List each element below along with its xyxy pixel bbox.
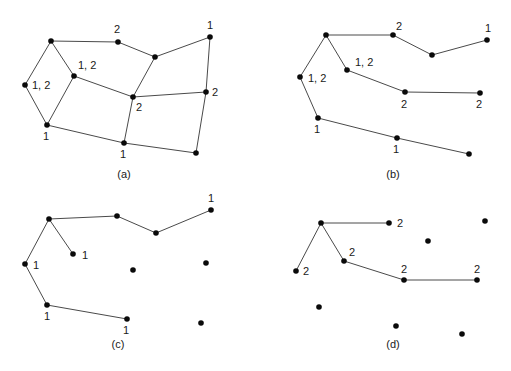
graph-node bbox=[393, 323, 399, 329]
graph-edge bbox=[124, 143, 196, 153]
graph-node bbox=[121, 140, 127, 146]
node-label: 1 bbox=[485, 22, 491, 34]
graph-node bbox=[390, 32, 396, 38]
graph-edge bbox=[344, 261, 404, 280]
graph-edge bbox=[432, 40, 487, 55]
node-label: 1, 2 bbox=[355, 56, 373, 68]
graph-edge bbox=[321, 223, 344, 261]
node-label: 1 bbox=[44, 310, 50, 322]
graph-node bbox=[70, 251, 76, 257]
node-label: 2 bbox=[401, 263, 407, 275]
graph-node bbox=[477, 90, 483, 96]
graph-node bbox=[386, 220, 392, 226]
graph-edge bbox=[47, 76, 74, 125]
node-label: 1, 2 bbox=[308, 72, 326, 84]
graph-edge bbox=[25, 219, 49, 264]
node-label: 2 bbox=[401, 98, 407, 110]
graph-node bbox=[203, 89, 209, 95]
node-label: 2 bbox=[303, 265, 309, 277]
graph-node bbox=[152, 54, 158, 60]
graph-node bbox=[341, 258, 347, 264]
node-label: 1 bbox=[120, 148, 126, 160]
graph-node bbox=[344, 67, 350, 73]
node-label: 2 bbox=[474, 263, 480, 275]
graph-node bbox=[130, 267, 136, 273]
node-label: 1 bbox=[33, 259, 39, 271]
graph-edge bbox=[156, 210, 211, 233]
graph-node bbox=[44, 122, 50, 128]
graph-node bbox=[474, 277, 480, 283]
panel-caption: (d) bbox=[386, 338, 399, 350]
graph-edge bbox=[51, 41, 74, 76]
graph-node bbox=[208, 207, 214, 213]
graph-edge bbox=[74, 76, 133, 97]
graph-node bbox=[198, 320, 204, 326]
node-label: 1, 2 bbox=[78, 59, 96, 71]
graph-edge bbox=[124, 97, 133, 143]
graph-edge bbox=[117, 216, 156, 233]
graph-node bbox=[425, 238, 431, 244]
graph-edge bbox=[155, 37, 210, 57]
graph-node bbox=[153, 230, 159, 236]
node-label: 1 bbox=[393, 143, 399, 155]
node-label: 1 bbox=[43, 130, 49, 142]
graph-edge bbox=[347, 70, 405, 92]
graph-node bbox=[459, 331, 465, 337]
graph-node bbox=[115, 39, 121, 45]
graph-node bbox=[44, 302, 50, 308]
node-label: 2 bbox=[136, 101, 142, 113]
graph-edge bbox=[397, 138, 469, 154]
graph-edge bbox=[47, 125, 124, 143]
graph-node bbox=[318, 220, 324, 226]
graph-node bbox=[316, 304, 322, 310]
graph-node bbox=[71, 73, 77, 79]
graph-node bbox=[466, 151, 472, 157]
panel-b-graph: 1, 21, 2212211(b) bbox=[297, 20, 491, 180]
graph-node bbox=[401, 277, 407, 283]
node-label: 1, 2 bbox=[32, 79, 50, 91]
graph-edge bbox=[49, 216, 117, 219]
panel-c-graph: 11111(c) bbox=[22, 192, 214, 350]
graph-edge bbox=[326, 35, 347, 70]
graph-node bbox=[394, 135, 400, 141]
panel-caption: (a) bbox=[117, 168, 130, 180]
graph-node bbox=[297, 74, 303, 80]
graph-node bbox=[46, 216, 52, 222]
graph-node bbox=[203, 260, 209, 266]
node-label: 2 bbox=[212, 86, 218, 98]
graph-edge bbox=[51, 41, 118, 42]
graph-node bbox=[482, 218, 488, 224]
graph-edge bbox=[296, 223, 321, 271]
graph-node bbox=[315, 115, 321, 121]
graph-node bbox=[323, 32, 329, 38]
node-label: 1 bbox=[82, 249, 88, 261]
graph-node bbox=[22, 261, 28, 267]
graph-node bbox=[114, 213, 120, 219]
node-label: 1 bbox=[208, 192, 214, 204]
node-label: 2 bbox=[397, 217, 403, 229]
node-label: 2 bbox=[396, 20, 402, 32]
graph-edge bbox=[206, 37, 210, 92]
node-label: 2 bbox=[114, 23, 120, 35]
graph-node bbox=[484, 37, 490, 43]
graph-edge bbox=[196, 92, 206, 153]
graph-edge bbox=[133, 57, 155, 97]
graph-edge bbox=[133, 92, 206, 97]
graph-edge bbox=[47, 305, 127, 319]
panel-caption: (c) bbox=[112, 338, 125, 350]
graph-node bbox=[22, 82, 28, 88]
panel-caption: (b) bbox=[386, 168, 399, 180]
graph-edge bbox=[393, 35, 432, 55]
graph-edge bbox=[25, 85, 47, 125]
node-label: 1 bbox=[314, 123, 320, 135]
node-label: 2 bbox=[476, 98, 482, 110]
graph-node bbox=[124, 316, 130, 322]
graph-edge bbox=[49, 219, 73, 254]
graph-node bbox=[48, 38, 54, 44]
node-label: 1 bbox=[207, 19, 213, 31]
graph-node bbox=[193, 150, 199, 156]
graph-edge bbox=[300, 35, 326, 77]
graph-node bbox=[429, 52, 435, 58]
graph-node bbox=[402, 89, 408, 95]
graph-node bbox=[293, 268, 299, 274]
